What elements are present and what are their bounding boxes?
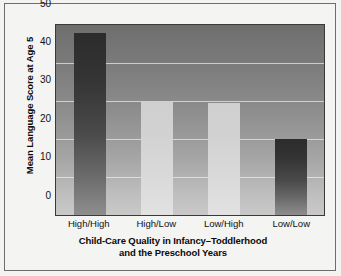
- x-tick-label: High/High: [56, 218, 122, 229]
- x-tick-label: Low/Low: [258, 218, 324, 229]
- bar-high-high: [74, 33, 106, 215]
- x-tick-label: High/Low: [123, 218, 189, 229]
- y-axis-ticks: 50 40 30 20 10 0: [5, 4, 51, 217]
- bar-high-low: [141, 101, 173, 215]
- y-tick-label: 10: [7, 151, 51, 162]
- y-tick-label: 40: [7, 36, 51, 47]
- bar-low-high: [208, 103, 240, 215]
- x-axis-label: Child-Care Quality in Infancy–Toddlerhoo…: [23, 235, 323, 259]
- bar-series: [56, 25, 324, 215]
- y-tick-label: 50: [7, 0, 51, 9]
- x-tick-label: Low/High: [191, 218, 257, 229]
- y-tick-label: 0: [7, 190, 51, 201]
- bar-low-low: [275, 139, 307, 215]
- x-axis-ticks: High/High High/Low Low/High Low/Low: [55, 218, 325, 229]
- y-tick-label: 20: [7, 113, 51, 124]
- figure: Mean Language Score at Age 5 50 40 30 20…: [0, 0, 341, 276]
- plot-area: [55, 24, 325, 216]
- y-tick-label: 30: [7, 74, 51, 85]
- x-axis-label-line-2: and the Preschool Years: [23, 247, 323, 259]
- figure-frame: Mean Language Score at Age 5 50 40 30 20…: [4, 3, 336, 271]
- x-axis-label-line-1: Child-Care Quality in Infancy–Toddlerhoo…: [23, 235, 323, 247]
